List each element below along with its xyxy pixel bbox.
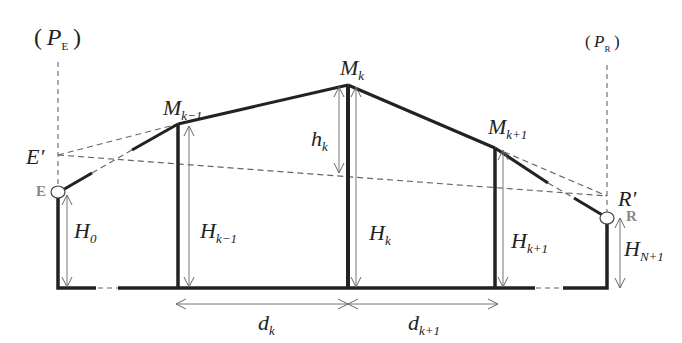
clearance-hk-label: hk	[311, 128, 328, 153]
terrain-r-seg	[574, 198, 604, 216]
peak-mk1-label: Mk−1	[163, 97, 202, 122]
terrain-gap-right	[548, 183, 574, 198]
distance-dk1-label: dk+1	[408, 312, 440, 337]
height-hk2-label: Hk+1	[511, 230, 548, 255]
emitter-circle	[51, 186, 65, 198]
emitter-label: E	[36, 184, 46, 199]
height-hk1-label: Hk−1	[200, 220, 237, 245]
plane-e-label: ( PE )	[34, 25, 81, 52]
plane-r-label: ( PR )	[585, 33, 620, 54]
diagram-canvas	[0, 0, 682, 343]
ground-right	[563, 223, 607, 288]
terrain-seg-b	[178, 85, 348, 124]
terrain-gap-left	[92, 150, 132, 173]
receiver-circle	[600, 212, 614, 224]
height-hn1-label: HN+1	[624, 238, 664, 263]
terrain-seg-c	[348, 85, 495, 148]
receiver-label: R	[626, 209, 637, 224]
rprime-label: R'	[618, 188, 636, 210]
peak-mk2-label: Mk+1	[488, 116, 527, 141]
sightline-eprime-mk1	[58, 124, 178, 155]
peak-mk-label: Mk	[340, 57, 364, 82]
terrain-seg-a	[132, 124, 178, 150]
height-h0-label: H0	[74, 220, 96, 245]
height-hk-label: Hk	[369, 222, 391, 247]
distance-dk-label: dk	[258, 312, 275, 337]
terrain-e-seg	[61, 173, 92, 191]
eprime-label: E'	[26, 146, 44, 168]
